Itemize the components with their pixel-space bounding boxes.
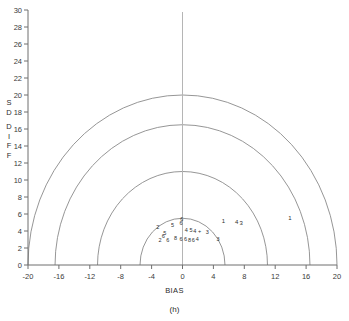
data-point-label: 6 — [184, 236, 187, 242]
x-tick-label: -12 — [84, 272, 95, 281]
data-point-label: 5 — [171, 222, 174, 228]
x-tick-label: -8 — [117, 272, 124, 281]
y-tick-label: 8 — [18, 193, 22, 202]
x-tick-label: 20 — [333, 272, 341, 281]
data-point-label: 1 — [288, 215, 292, 221]
data-point-label: 6 — [166, 237, 169, 243]
x-tick-label: 0 — [180, 272, 184, 281]
data-point-label: 6 — [179, 236, 182, 242]
data-point-label: 6 — [179, 220, 182, 226]
x-tick-label: -16 — [53, 272, 64, 281]
figure-panel: -20-16-12-8-4048121620 02468101214161820… — [0, 0, 349, 321]
y-axis-title-letter: F — [3, 141, 15, 151]
y-tick-label: 12 — [14, 159, 22, 168]
y-tick-label: 2 — [18, 244, 22, 253]
x-tick-label: -4 — [148, 272, 155, 281]
data-point-label: 4 — [185, 227, 188, 233]
y-tick-label: 6 — [18, 210, 22, 219]
x-axis-title: BIAS — [0, 286, 349, 295]
y-tick-label: 0 — [18, 261, 22, 270]
y-axis-tick-group: 024681012141618202224262830 — [14, 6, 28, 270]
x-tick-label: 8 — [242, 272, 246, 281]
data-point-label: 2 — [156, 224, 159, 230]
data-point-label: 4 — [235, 219, 239, 225]
data-point-label: 3 — [240, 220, 244, 226]
data-point-label: 5 — [189, 227, 192, 233]
data-point-label: 4 — [196, 236, 199, 242]
y-axis-title-letter: S — [3, 98, 15, 108]
data-point-label: 3 — [217, 236, 220, 242]
data-point-label: 6 — [192, 237, 195, 243]
y-axis-title-letter: D — [3, 122, 15, 132]
data-point-label: 8 — [188, 237, 191, 243]
data-point-group: 25665626866864454+331431 — [156, 215, 292, 243]
y-tick-label: 28 — [14, 23, 22, 32]
data-point-label: 2 — [159, 237, 162, 243]
y-tick-label: 30 — [14, 6, 22, 15]
y-tick-label: 10 — [14, 176, 22, 185]
data-point-label: 6 — [162, 233, 165, 239]
data-point-label: 3 — [206, 229, 209, 235]
y-axis-title-letter: F — [3, 151, 15, 161]
y-axis-title: SD DIFF — [3, 98, 15, 160]
y-tick-label: 4 — [18, 227, 22, 236]
y-tick-label: 22 — [14, 74, 22, 83]
y-tick-label: 24 — [14, 57, 22, 66]
scatter-plot-svg: -20-16-12-8-4048121620 02468101214161820… — [0, 0, 349, 321]
x-tick-label: 12 — [271, 272, 279, 281]
x-tick-label: 4 — [211, 272, 215, 281]
data-point-label: 8 — [174, 235, 177, 241]
x-axis-tick-group: -20-16-12-8-4048121620 — [23, 265, 342, 281]
y-axis-title-letter: D — [3, 108, 15, 118]
figure-caption: (h) — [0, 305, 349, 314]
data-point-label: 1 — [222, 218, 226, 224]
data-point-label: 4 — [193, 228, 196, 234]
y-tick-label: 26 — [14, 40, 22, 49]
data-point-label: + — [198, 228, 201, 234]
x-tick-label: -20 — [23, 272, 34, 281]
x-tick-label: 16 — [302, 272, 310, 281]
y-axis-title-letter: I — [3, 132, 15, 142]
